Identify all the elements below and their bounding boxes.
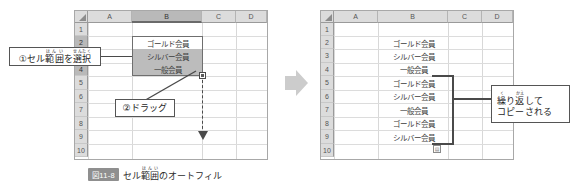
- column-header-c[interactable]: C: [448, 11, 482, 23]
- grid-line-horizontal: [334, 144, 513, 145]
- callout-1-leader-line: [99, 56, 132, 57]
- arrow-head: [296, 70, 308, 96]
- row-header-6[interactable]: 6: [75, 90, 88, 103]
- row-header-1[interactable]: 1: [321, 23, 334, 36]
- row-header-3[interactable]: 3: [321, 49, 334, 63]
- callout-repeat-copy: 繰くり返かえして コピーされる: [491, 85, 570, 123]
- callout-drag: ②ドラッグ: [115, 99, 175, 117]
- grid-line-vertical: [482, 23, 483, 159]
- ruby-hani: 範囲はんい: [45, 54, 63, 64]
- callout-3-line-2: コピーされる: [497, 107, 552, 118]
- row-header-2[interactable]: 2: [321, 36, 334, 49]
- row-header-5[interactable]: 5: [321, 76, 334, 90]
- row-header-1[interactable]: 1: [75, 23, 88, 36]
- grid-line-vertical: [236, 23, 237, 159]
- row-header-4[interactable]: 4: [321, 63, 334, 76]
- figure-number-badge: 図11-8: [88, 168, 119, 181]
- row-header-8[interactable]: 8: [321, 117, 334, 130]
- callout-1-text: ①セル範囲はんいを選択せんたく: [19, 49, 92, 65]
- ruby-ku: 繰く: [497, 96, 506, 106]
- row-header-10[interactable]: 10: [321, 144, 334, 157]
- figure-caption-text: セル範囲はんいのオートフィル: [123, 166, 222, 182]
- drag-path-dashed-line: [202, 80, 203, 134]
- grid-line-horizontal: [88, 130, 267, 131]
- column-header-a[interactable]: A: [88, 11, 132, 23]
- spreadsheet-after: A B C D 1 2 3 4 5 6 7 8 9 10 ゴールド会員 シルバー…: [320, 10, 514, 160]
- dashed-down-arrow-icon: [198, 131, 208, 140]
- callout-3-leader-line: [452, 98, 492, 100]
- row-header-9[interactable]: 9: [321, 130, 334, 144]
- autofill-options-icon[interactable]: ▤: [433, 145, 441, 153]
- callout-2-text: ②ドラッグ: [122, 103, 167, 114]
- autofill-figure: A B C D 1 2 3 4 5 6 7 8 9 10 ゴールド会員: [0, 0, 579, 184]
- column-header-d[interactable]: D: [236, 11, 267, 23]
- row-header-7[interactable]: 7: [75, 103, 88, 117]
- ruby-hani-caption: 範囲はんい: [141, 171, 159, 181]
- fill-handle-icon[interactable]: [199, 72, 206, 79]
- row-header-10[interactable]: 10: [75, 144, 88, 157]
- ruby-kae: 返かえ: [515, 96, 524, 106]
- cell-b3[interactable]: シルバー会員: [379, 49, 448, 63]
- select-all-corner[interactable]: [321, 11, 334, 23]
- ruby-sentaku: 選択せんたく: [73, 54, 91, 64]
- callout-select-range: ①セル範囲はんいを選択せんたく: [9, 47, 101, 66]
- row-header-6[interactable]: 6: [321, 90, 334, 103]
- copied-range-bracket: [432, 75, 454, 145]
- column-header-c[interactable]: C: [202, 11, 236, 23]
- cell-b2[interactable]: ゴールド会員: [133, 37, 202, 49]
- row-header-8[interactable]: 8: [75, 117, 88, 130]
- figure-caption: 図11-8 セル範囲はんいのオートフィル: [88, 166, 222, 182]
- column-header-b[interactable]: B: [378, 11, 448, 23]
- grid-line-horizontal: [88, 117, 267, 118]
- row-header-5[interactable]: 5: [75, 76, 88, 90]
- column-header-a[interactable]: A: [334, 11, 378, 23]
- callout-3-line-1: 繰くり返かえして: [497, 91, 543, 107]
- leader-segment: [142, 71, 196, 102]
- grid-line-horizontal: [88, 144, 267, 145]
- right-arrow-icon: [285, 70, 309, 96]
- cell-b3[interactable]: シルバー会員: [133, 49, 202, 63]
- select-all-corner[interactable]: [75, 11, 88, 23]
- grid-line-vertical: [334, 23, 335, 159]
- column-header-d[interactable]: D: [482, 11, 513, 23]
- grid-line-vertical: [88, 23, 89, 159]
- row-header-9[interactable]: 9: [75, 130, 88, 144]
- column-header-b[interactable]: B: [132, 11, 202, 23]
- cell-b2[interactable]: ゴールド会員: [379, 37, 448, 49]
- row-header-7[interactable]: 7: [321, 103, 334, 117]
